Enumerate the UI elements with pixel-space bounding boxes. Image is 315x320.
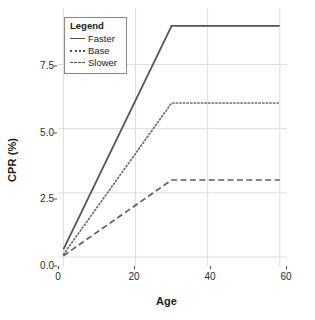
- plot-area: [0, 0, 315, 320]
- legend-key-solid-icon: [70, 34, 85, 44]
- series-line-slower: [63, 180, 279, 256]
- legend[interactable]: Legend Faster Base Slower: [64, 17, 127, 74]
- legend-item-base[interactable]: Base: [70, 45, 122, 57]
- legend-item-faster[interactable]: Faster: [70, 33, 122, 45]
- legend-label-faster: Faster: [85, 34, 115, 44]
- legend-key-dashed-icon: [70, 58, 85, 68]
- series-line-base: [63, 103, 279, 254]
- x-axis-title: Age: [24, 295, 309, 307]
- legend-title: Legend: [70, 21, 122, 31]
- legend-key-dotted-icon: [70, 46, 85, 56]
- legend-item-slower[interactable]: Slower: [70, 57, 122, 69]
- legend-label-base: Base: [85, 46, 110, 56]
- legend-label-slower: Slower: [85, 58, 117, 68]
- chart-figure: CPR (%) 0.0 2.5 5.0 7.5 0 20 40 60 Legen…: [0, 0, 315, 320]
